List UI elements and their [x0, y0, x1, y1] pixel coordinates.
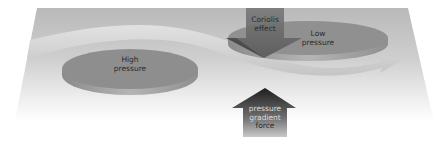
low-pressure-label-line2: pressure — [296, 39, 340, 48]
diagram-graphics — [0, 0, 447, 142]
wind-forces-diagram: High pressure Low pressure Coriolis effe… — [0, 0, 447, 142]
pressure-gradient-label-line3: force — [241, 122, 289, 131]
coriolis-label-line2: effect — [244, 25, 286, 34]
high-pressure-label-line2: pressure — [108, 65, 152, 74]
low-pressure-label: Low pressure — [296, 30, 340, 47]
pressure-gradient-label: pressure gradient force — [241, 105, 289, 131]
high-pressure-label: High pressure — [108, 56, 152, 73]
coriolis-label: Coriolis effect — [244, 16, 286, 33]
